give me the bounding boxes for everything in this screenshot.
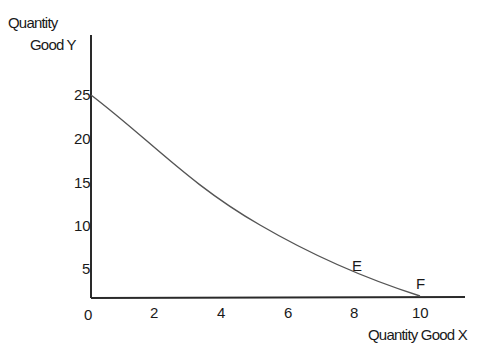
x-tick-2: 2 [150,304,158,321]
chart: Quantity Good Y 25 20 15 10 5 0 2 4 6 8 … [0,0,499,358]
x-tick-labels: 0 2 4 6 8 10 [84,304,429,323]
y-tick-20: 20 [74,130,91,147]
y-axis-title-line2: Good Y [30,36,77,53]
y-tick-10: 10 [74,217,91,234]
x-axis-line [91,297,465,298]
x-tick-10: 10 [412,304,429,321]
x-tick-0: 0 [84,306,92,323]
curve-line [91,95,420,296]
x-tick-4: 4 [217,304,225,321]
y-tick-labels: 25 20 15 10 5 [74,86,91,277]
x-tick-6: 6 [284,304,292,321]
y-tick-5: 5 [82,260,90,277]
x-axis-title: Quantity Good X [368,326,468,343]
y-tick-25: 25 [74,86,91,103]
y-axis-title-line1: Quantity [8,14,59,31]
x-tick-8: 8 [350,304,358,321]
point-e-label: E [352,257,362,274]
point-f-label: F [416,275,425,292]
y-tick-15: 15 [74,174,91,191]
